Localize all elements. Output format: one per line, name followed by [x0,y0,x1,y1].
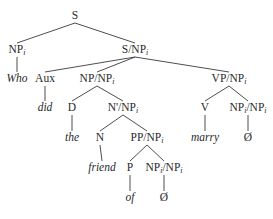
index-subscript: i [146,48,148,57]
tree-branch [97,57,135,72]
node-empty1: Ø [244,132,252,144]
word-marry: marry [191,132,219,144]
node-label: NP [9,43,24,55]
node-label: /NP [162,161,180,173]
tree-branch [72,86,97,101]
word-of: of [126,192,135,204]
node-npinpi1: NPi/NPi [229,102,266,115]
tree-branch [45,57,135,72]
node-label: VP/NP [212,72,245,84]
index-subscript: i [136,106,138,115]
tree-branch [75,23,135,43]
tree-branch [17,23,75,43]
node-label: N [96,131,104,143]
word-who: Who [6,73,27,85]
tree-branch [123,115,147,131]
tree-branch [147,145,164,161]
node-label: V [201,101,209,113]
node-n: N [96,132,104,144]
tree-branch [205,86,229,101]
node-aux: Aux [35,73,55,85]
tree-branch [135,57,229,72]
node-label: did [38,101,53,113]
node-label: S [72,9,78,21]
tree-branch [229,86,248,101]
index-subscript: i [180,166,182,175]
node-label: Ø [244,131,252,143]
tree-branch [100,115,123,131]
word-friend: friend [88,162,115,174]
node-ppnp: PP/NPi [131,132,164,145]
node-npnp: NP/NPi [80,73,115,86]
word-the: the [65,132,79,144]
node-label: /NP [246,101,264,113]
node-label: the [65,131,79,143]
node-label: P [127,161,133,173]
node-d: D [68,102,76,114]
node-label: D [68,101,76,113]
node-npi: NPi [9,44,26,57]
node-v: V [201,102,209,114]
node-label: N'/NP [108,101,136,113]
node-empty2: Ø [160,192,168,204]
node-label: of [126,191,135,203]
node-label: Ø [160,191,168,203]
node-label: NP/NP [80,72,113,84]
node-vpnp: VP/NPi [212,73,247,86]
index-subscript: i [161,136,163,145]
index-subscript: i [112,77,114,86]
index-subscript: i [244,77,246,86]
node-label: NP [145,161,160,173]
node-label: PP/NP [131,131,162,143]
node-nbarnp: N'/NPi [108,102,139,115]
node-p: P [127,162,133,174]
word-did: did [38,102,53,114]
node-snp: S/NPi [122,44,149,57]
tree-branch [97,86,123,101]
node-s: S [72,10,78,22]
index-subscript: i [264,106,266,115]
node-label: S/NP [122,43,146,55]
node-label: marry [191,131,219,143]
node-label: friend [88,161,115,173]
tree-branch [100,145,102,161]
node-label: Who [6,72,27,84]
index-subscript: i [23,48,25,57]
node-label: Aux [35,72,55,84]
node-label: NP [229,101,244,113]
node-npinpi2: NPi/NPi [145,162,182,175]
tree-branch [130,145,147,161]
